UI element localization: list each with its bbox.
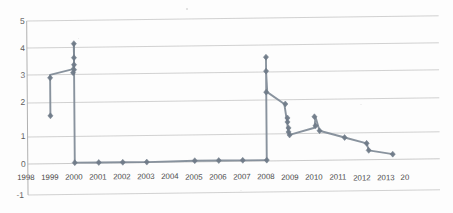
data-point-marker (72, 160, 77, 166)
data-point-marker (71, 62, 76, 68)
gridline-neg1 (28, 190, 440, 195)
data-point-marker (366, 147, 371, 153)
chart-plot-area: 5 4 3 2 1 0 -1 1998 1999 2000 2001 2002 … (0, 0, 453, 213)
gridline-2 (27, 98, 439, 103)
data-point-marker (264, 89, 269, 95)
data-point-marker (283, 101, 288, 107)
data-point-marker (264, 157, 269, 163)
data-point-marker (144, 159, 149, 165)
data-point-marker (71, 41, 76, 47)
data-point-marker (48, 113, 53, 119)
gridline-4 (27, 43, 439, 48)
data-point-marker (240, 157, 245, 163)
chart-svg (0, 0, 453, 213)
gridline-3 (27, 70, 439, 75)
data-point-marker (317, 128, 322, 134)
data-point-marker (285, 119, 290, 125)
data-point-marker (364, 140, 369, 146)
gridline-5 (27, 16, 439, 21)
data-point-marker (96, 159, 101, 165)
data-point-marker (120, 159, 125, 165)
data-point-marker (390, 151, 395, 157)
data-point-marker (263, 54, 268, 60)
scan-artifact (78, 38, 79, 39)
scan-artifact (360, 104, 362, 105)
data-point-marker (263, 68, 268, 74)
y-axis-spine (27, 21, 28, 195)
data-point-marker (47, 75, 52, 81)
gridline-1 (28, 132, 440, 137)
chart-container: 5 4 3 2 1 0 -1 1998 1999 2000 2001 2002 … (0, 0, 453, 213)
data-point-marker (192, 158, 197, 164)
scan-artifact (186, 8, 188, 10)
data-point-marker (71, 55, 76, 61)
data-point-marker (342, 135, 347, 141)
data-point-marker (216, 157, 221, 163)
scan-artifact (240, 190, 242, 191)
series-line-1 (50, 44, 75, 116)
